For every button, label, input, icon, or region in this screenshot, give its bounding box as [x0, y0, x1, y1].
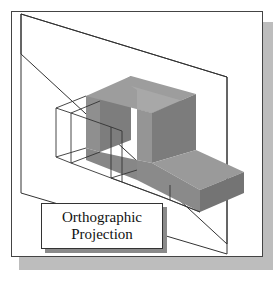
caption-box: Orthographic Projection	[41, 203, 163, 249]
caption-line-2: Projection	[71, 226, 133, 243]
solid-object	[86, 76, 244, 212]
caption-line-1: Orthographic	[62, 209, 142, 226]
